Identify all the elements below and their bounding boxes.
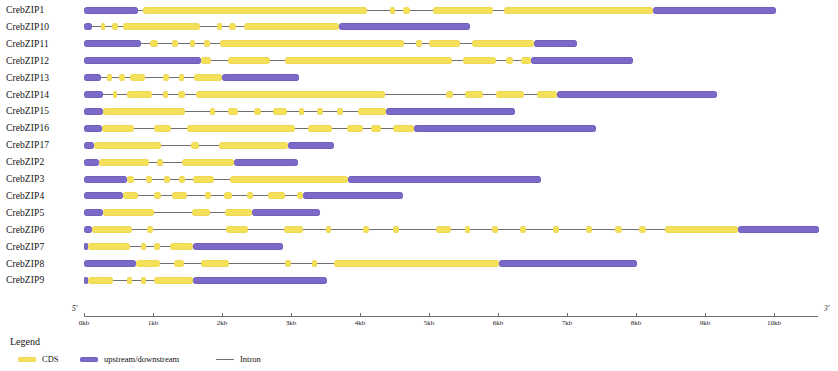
cds-block: [163, 91, 169, 98]
cds-block: [210, 108, 216, 115]
cds-block: [297, 192, 304, 199]
cds-block: [103, 209, 154, 216]
utr-block: [348, 176, 541, 183]
cds-block: [154, 243, 160, 250]
utr-block: [531, 57, 632, 64]
utr-block: [84, 108, 103, 115]
cds-block: [553, 226, 559, 233]
utr-block: [193, 243, 283, 250]
cds-block: [586, 226, 592, 233]
cds-block: [504, 7, 653, 14]
cds-block: [247, 192, 253, 199]
gene-row: CrebZIP3: [0, 172, 838, 186]
axis-line: [84, 316, 818, 317]
cds-block: [172, 192, 187, 199]
cds-block: [521, 57, 531, 64]
cds-block: [127, 91, 151, 98]
gene-row: CrebZIP9: [0, 273, 838, 287]
utr-block: [653, 7, 776, 14]
gene-track: [0, 155, 838, 169]
cds-block: [347, 125, 364, 132]
cds-block: [136, 260, 159, 267]
gene-track: [0, 223, 838, 237]
axis-tick-label: 5kb: [424, 319, 435, 327]
cds-block: [170, 243, 193, 250]
cds-block: [119, 74, 125, 81]
axis-tick-label: 10kb: [767, 319, 781, 327]
gene-track: [0, 104, 838, 118]
cds-block: [285, 260, 291, 267]
cds-block: [228, 57, 270, 64]
gene-row: CrebZIP15: [0, 104, 838, 118]
axis-tick-label: 2kb: [217, 319, 228, 327]
utr-block: [84, 7, 138, 14]
cds-block: [154, 192, 160, 199]
utr-block: [288, 142, 334, 149]
utr-block: [222, 74, 299, 81]
gene-track: [0, 240, 838, 254]
axis-tick-label: 9kb: [700, 319, 711, 327]
axis-tick: [153, 313, 154, 317]
cds-block: [224, 192, 232, 199]
cds-block: [164, 176, 170, 183]
utr-block: [534, 40, 577, 47]
cds-block: [416, 40, 422, 47]
axis-tick: [774, 313, 775, 317]
upstream-downstream-swatch-icon: [80, 357, 98, 362]
axis-tick-label: 7kb: [562, 319, 573, 327]
gene-row: CrebZIP14: [0, 88, 838, 102]
five-prime-label: 5': [72, 304, 77, 313]
utr-block: [84, 159, 99, 166]
cds-block: [230, 176, 347, 183]
cds-block: [190, 40, 195, 47]
cds-block: [141, 243, 147, 250]
cds-block: [284, 226, 303, 233]
utr-block: [252, 209, 320, 216]
gene-row: CrebZIP4: [0, 189, 838, 203]
utr-block: [84, 226, 92, 233]
cds-block: [665, 226, 738, 233]
cds-block: [127, 277, 133, 284]
utr-block: [84, 176, 127, 183]
gene-row: CrebZIP17: [0, 138, 838, 152]
cds-swatch-icon: [18, 357, 36, 362]
cds-block: [463, 57, 496, 64]
axis-tick: [360, 313, 361, 317]
cds-block: [143, 7, 367, 14]
cds-block: [88, 277, 113, 284]
cds-block: [371, 125, 381, 132]
cds-block: [225, 209, 252, 216]
cds-block: [363, 226, 369, 233]
cds-block: [393, 125, 414, 132]
gene-track: [0, 257, 838, 271]
cds-block: [217, 23, 222, 30]
cds-block: [337, 108, 344, 115]
gene-track: [0, 273, 838, 287]
utr-block: [234, 159, 297, 166]
cds-block: [179, 74, 185, 81]
cds-block: [123, 192, 138, 199]
axis-tick: [429, 313, 430, 317]
cds-block: [496, 91, 524, 98]
cds-block: [88, 243, 129, 250]
gene-track: [0, 172, 838, 186]
utr-block: [339, 23, 470, 30]
gene-row: CrebZIP10: [0, 20, 838, 34]
axis-tick-label: 0kb: [79, 319, 90, 327]
cds-block: [204, 40, 210, 47]
cds-block: [639, 226, 645, 233]
cds-block: [228, 108, 238, 115]
cds-block: [317, 108, 323, 115]
cds-block: [229, 23, 237, 30]
cds-block: [390, 7, 396, 14]
cds-block: [299, 108, 305, 115]
utr-block: [738, 226, 819, 233]
intron-swatch-icon: [216, 359, 234, 360]
gene-row: CrebZIP16: [0, 121, 838, 135]
cds-block: [192, 209, 209, 216]
utr-block: [414, 125, 596, 132]
axis-tick: [567, 313, 568, 317]
gene-structure-figure: CrebZIP1CrebZIP10CrebZIP11CrebZIP12CrebZ…: [0, 0, 838, 371]
cds-block: [358, 108, 386, 115]
gene-row: CrebZIP5: [0, 206, 838, 220]
